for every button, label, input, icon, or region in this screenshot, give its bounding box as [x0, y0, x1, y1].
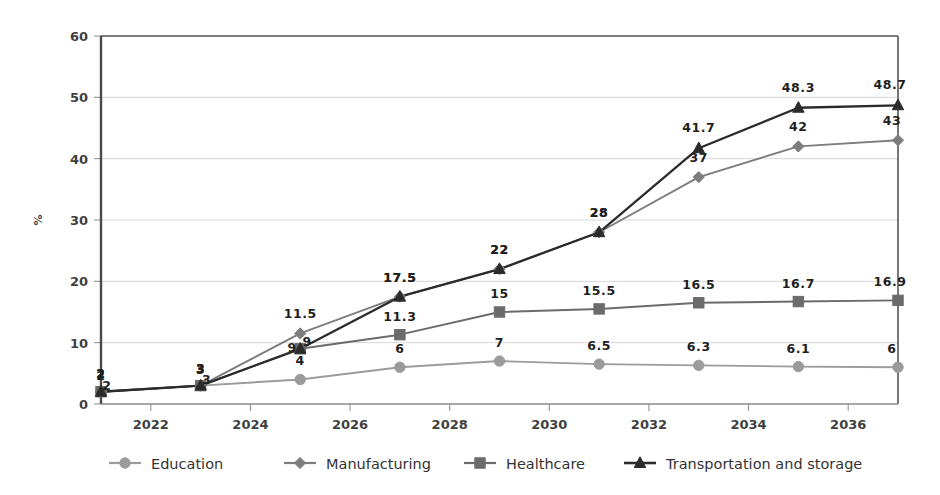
- data-label-manufacturing-2033: 37: [689, 150, 708, 165]
- legend-label-manufacturing[interactable]: Manufacturing: [326, 456, 431, 472]
- data-label-education-2037: 6: [887, 341, 896, 356]
- data-label-transportation-and-storage-2033: 41.7: [682, 120, 715, 135]
- data-label-manufacturing-2037: 43: [883, 113, 902, 128]
- x-axis-tick-label: 2030: [531, 417, 567, 432]
- y-axis-tick-label: 40: [70, 152, 88, 167]
- data-point-education-2027: [395, 362, 405, 372]
- data-label-healthcare-2029: 15: [490, 286, 509, 301]
- data-point-manufacturing-2035: [793, 141, 804, 152]
- data-point-education-2033: [694, 360, 704, 370]
- data-point-manufacturing-2037: [892, 135, 903, 146]
- data-point-healthcare-2029: [494, 307, 504, 317]
- legend-label-transportation-and-storage[interactable]: Transportation and storage: [665, 456, 862, 472]
- data-label-healthcare-2035: 16.7: [782, 276, 815, 291]
- data-label-education-2025: 4: [296, 353, 305, 368]
- x-axis-tick-label: 2024: [232, 417, 268, 432]
- data-point-healthcare-2031: [594, 304, 604, 314]
- x-axis-tick-label: 2032: [631, 417, 667, 432]
- chart-canvas: 0102030405060202220242026202820302032203…: [0, 0, 940, 495]
- data-point-healthcare-2027: [395, 329, 405, 339]
- data-label-transportation-and-storage-2029: 22: [490, 242, 509, 257]
- data-label-education-2031: 6.5: [587, 338, 611, 353]
- data-label-education-2029: 7: [495, 335, 504, 350]
- x-axis-tick-label: 2022: [133, 417, 169, 432]
- legend-label-education[interactable]: Education: [151, 456, 223, 472]
- data-label-transportation-and-storage-2023: 3: [196, 361, 205, 376]
- data-point-education-2025: [295, 374, 305, 384]
- data-label-transportation-and-storage-2037: 48.7: [873, 77, 906, 92]
- line-chart: 0102030405060202220242026202820302032203…: [0, 0, 940, 495]
- y-axis-title: %: [32, 214, 45, 225]
- x-axis-tick-label: 2028: [432, 417, 468, 432]
- data-label-healthcare-2037: 16.9: [873, 274, 906, 289]
- legend-marker-healthcare: [475, 458, 485, 468]
- data-label-transportation-and-storage-2025: 9: [288, 340, 297, 355]
- y-axis-tick-label: 30: [70, 213, 88, 228]
- y-axis-tick-label: 20: [70, 274, 88, 289]
- y-axis-tick-label: 0: [79, 397, 88, 412]
- legend-label-healthcare[interactable]: Healthcare: [506, 456, 585, 472]
- data-label-education-2027: 6: [395, 341, 404, 356]
- y-axis-tick-label: 60: [70, 29, 88, 44]
- data-point-education-2029: [494, 356, 504, 366]
- data-label-transportation-and-storage-2021: 2: [96, 366, 105, 381]
- data-point-healthcare-2035: [793, 296, 803, 306]
- data-point-healthcare-2037: [893, 295, 903, 305]
- data-label-manufacturing-2025: 11.5: [284, 306, 317, 321]
- legend-marker-education: [120, 458, 130, 468]
- legend-marker-manufacturing: [294, 457, 305, 468]
- data-label-healthcare-2033: 16.5: [682, 277, 715, 292]
- data-point-education-2037: [893, 362, 903, 372]
- y-axis-tick-label: 50: [70, 90, 88, 105]
- data-label-education-2035: 6.1: [786, 341, 810, 356]
- data-label-healthcare-2031: 15.5: [583, 283, 616, 298]
- data-label-manufacturing-2035: 42: [789, 119, 808, 134]
- data-point-education-2035: [793, 361, 803, 371]
- data-label-transportation-and-storage-2035: 48.3: [782, 80, 815, 95]
- data-label-healthcare-2027: 11.3: [383, 309, 416, 324]
- x-axis-tick-label: 2026: [332, 417, 368, 432]
- data-point-manufacturing-2033: [693, 171, 704, 182]
- data-label-healthcare-2025: 9: [303, 334, 312, 349]
- data-label-education-2033: 6.3: [687, 339, 711, 354]
- data-point-healthcare-2033: [694, 298, 704, 308]
- data-label-transportation-and-storage-2031: 28: [590, 205, 609, 220]
- x-axis-tick-label: 2036: [830, 417, 866, 432]
- data-point-education-2031: [594, 359, 604, 369]
- data-label-transportation-and-storage-2027: 17.5: [383, 270, 416, 285]
- y-axis-tick-label: 10: [70, 336, 88, 351]
- x-axis-tick-label: 2034: [730, 417, 766, 432]
